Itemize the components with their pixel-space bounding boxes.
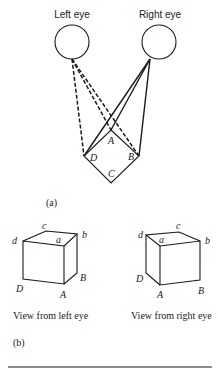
vertex-label-A: A — [107, 135, 115, 146]
right-cube-label-b: b — [205, 235, 210, 246]
left-cube: c d a b B D A View from left eye — [12, 220, 89, 321]
left-cube-label-A: A — [59, 289, 67, 300]
left-eye-sight-lines — [72, 59, 139, 156]
left-cube-label-B: B — [80, 272, 86, 283]
vertex-label-B: B — [128, 151, 134, 162]
right-cube-label-c: c — [176, 220, 181, 231]
right-cube-caption: View from right eye — [131, 310, 212, 321]
right-cube-label-D: D — [135, 273, 144, 284]
right-cube-label-d: d — [138, 229, 144, 240]
right-cube: c d a b D A B View from right eye — [131, 220, 212, 321]
right-cube-label-a: a — [159, 234, 164, 245]
left-cube-label-c: c — [42, 220, 47, 231]
vertex-label-C: C — [108, 168, 115, 179]
vertex-label-D: D — [89, 152, 98, 163]
right-cube-label-A: A — [156, 289, 164, 300]
left-cube-label-d: d — [12, 235, 18, 246]
left-cube-label-D: D — [15, 283, 24, 294]
stereo-vision-diagram: Left eye Right eye A B C D (a) c — [0, 0, 218, 369]
right-eye-circle — [142, 25, 176, 59]
right-eye-sight-lines — [84, 59, 150, 156]
part-a: Left eye Right eye A B C D (a) — [46, 9, 182, 209]
left-eye-label: Left eye — [54, 9, 90, 20]
left-eye-circle — [55, 25, 89, 59]
part-a-caption: (a) — [46, 197, 57, 209]
right-cube-label-B: B — [198, 285, 204, 296]
right-eye-label: Right eye — [139, 9, 182, 20]
left-cube-caption: View from left eye — [13, 310, 89, 321]
left-cube-label-a: a — [56, 234, 61, 245]
part-b-caption: (b) — [13, 337, 25, 349]
left-cube-label-b: b — [82, 229, 87, 240]
